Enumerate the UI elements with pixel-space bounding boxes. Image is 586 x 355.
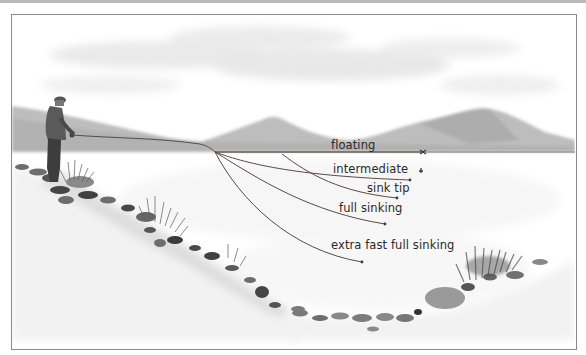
mountains xyxy=(12,106,575,152)
label-full-sinking: full sinking xyxy=(339,201,403,215)
label-intermediate: intermediate xyxy=(333,162,408,176)
fly-line-illustration xyxy=(0,0,586,355)
label-floating: floating xyxy=(331,138,375,152)
label-extra-fast-full-sinking: extra fast full sinking xyxy=(331,238,454,252)
label-sink-tip: sink tip xyxy=(367,181,410,195)
clouds xyxy=(40,26,560,95)
